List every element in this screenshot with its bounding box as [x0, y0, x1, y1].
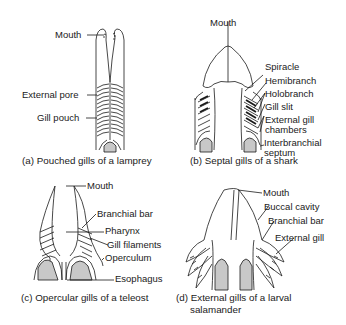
label-teleost-esophagus: Esophagus — [115, 274, 163, 284]
caption-teleost: (c) Opercular gills of a teleost — [21, 292, 148, 303]
label-salamander-external-gill: External gill — [275, 233, 324, 243]
label-shark-mouth: Mouth — [210, 18, 236, 28]
label-salamander-branchial-bar: Branchial bar — [268, 216, 324, 226]
shark-drawing — [195, 22, 266, 152]
teleost-drawing — [34, 186, 114, 280]
label-teleost-operculum: Operculum — [105, 253, 151, 263]
label-shark-chambers: chambers — [265, 125, 307, 135]
label-shark-gill-slit: Gill slit — [265, 102, 293, 112]
lamprey-drawing — [86, 29, 124, 152]
label-shark-holobranch: Holobranch — [265, 89, 314, 99]
caption-lamprey: (a) Pouched gills of a lamprey — [22, 155, 152, 166]
label-salamander-buccal-cavity: Buccal cavity — [264, 202, 319, 212]
caption-salamander-line1: (d) External gills of a larval — [176, 292, 291, 303]
label-salamander-mouth: Mouth — [263, 188, 289, 198]
label-teleost-mouth: Mouth — [87, 181, 113, 191]
label-teleost-gill-filaments: Gill filaments — [107, 240, 161, 250]
caption-shark: (b) Septal gills of a shark — [190, 155, 298, 166]
caption-salamander-line2: salamander — [190, 304, 241, 315]
label-lamprey-external-pore: External pore — [22, 90, 79, 100]
label-teleost-pharynx: Pharynx — [105, 226, 140, 236]
label-lamprey-mouth: Mouth — [55, 30, 81, 40]
label-lamprey-gill-pouch: Gill pouch — [37, 113, 79, 123]
label-teleost-branchial-bar: Branchial bar — [97, 209, 153, 219]
label-shark-spiracle: Spiracle — [265, 62, 299, 72]
label-shark-hemibranch: Hemibranch — [265, 76, 316, 86]
